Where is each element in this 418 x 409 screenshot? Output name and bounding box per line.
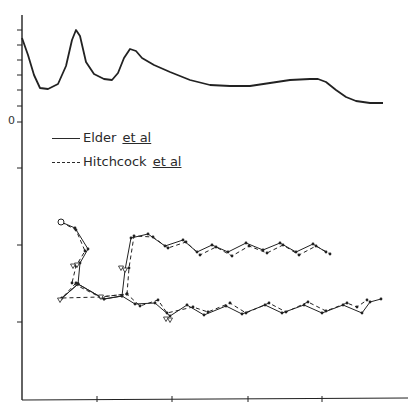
legend-label: Elder [83,126,116,150]
legend-label: Hitchcock [83,150,147,174]
legend-item-hitchcock: Hitchcock et al [52,150,181,174]
legend-label-suffix: et al [153,150,182,174]
y-tick-label-zero: 0 [8,114,15,127]
series-lines [22,30,383,323]
legend-item-elder: Elder et al [52,126,181,150]
chart-plot [0,0,418,409]
x-axis [22,398,408,400]
y-ticks [17,30,22,322]
dashed-line-swatch [52,162,80,163]
solid-line-swatch [52,138,80,139]
legend-label-suffix: et al [122,126,151,150]
legend: Elder et al Hitchcock et al [52,126,181,174]
